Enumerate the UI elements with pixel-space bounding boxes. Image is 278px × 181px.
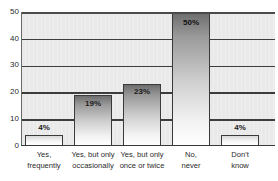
- bar-chart: 50 40 30 20 10 0 4% 19% 23% 50% 4% Yes,: [0, 0, 278, 181]
- plot-area: 4% 19% 23% 50% 4%: [21, 12, 275, 146]
- value-label-yes-frequently: 4%: [25, 124, 63, 132]
- x-label-line-1: Don't: [206, 149, 274, 160]
- bar-no-never[interactable]: [172, 12, 210, 146]
- value-label-dont-know: 4%: [221, 124, 259, 132]
- plot-frame-bottom: [21, 145, 275, 146]
- x-axis: Yes, frequently Yes, but only occasional…: [21, 149, 275, 179]
- value-label-yes-but-only-occasionally: 19%: [74, 100, 112, 108]
- x-label-line-2: know: [206, 160, 274, 171]
- gridline-30: [21, 66, 275, 68]
- plot-frame-left: [21, 12, 22, 146]
- gridline-40: [21, 39, 275, 41]
- y-tick-label-30: 30: [2, 61, 19, 69]
- y-tick-label-10: 10: [2, 115, 19, 123]
- plot-frame-top: [21, 12, 275, 14]
- value-label-no-never: 50%: [172, 19, 210, 27]
- y-tick-label-40: 40: [2, 35, 19, 43]
- y-tick-label-50: 50: [2, 8, 19, 16]
- y-tick-label-20: 20: [2, 88, 19, 96]
- value-label-yes-but-only-once-or-twice: 23%: [123, 88, 161, 96]
- x-label-dont-know: Don't know: [206, 149, 274, 171]
